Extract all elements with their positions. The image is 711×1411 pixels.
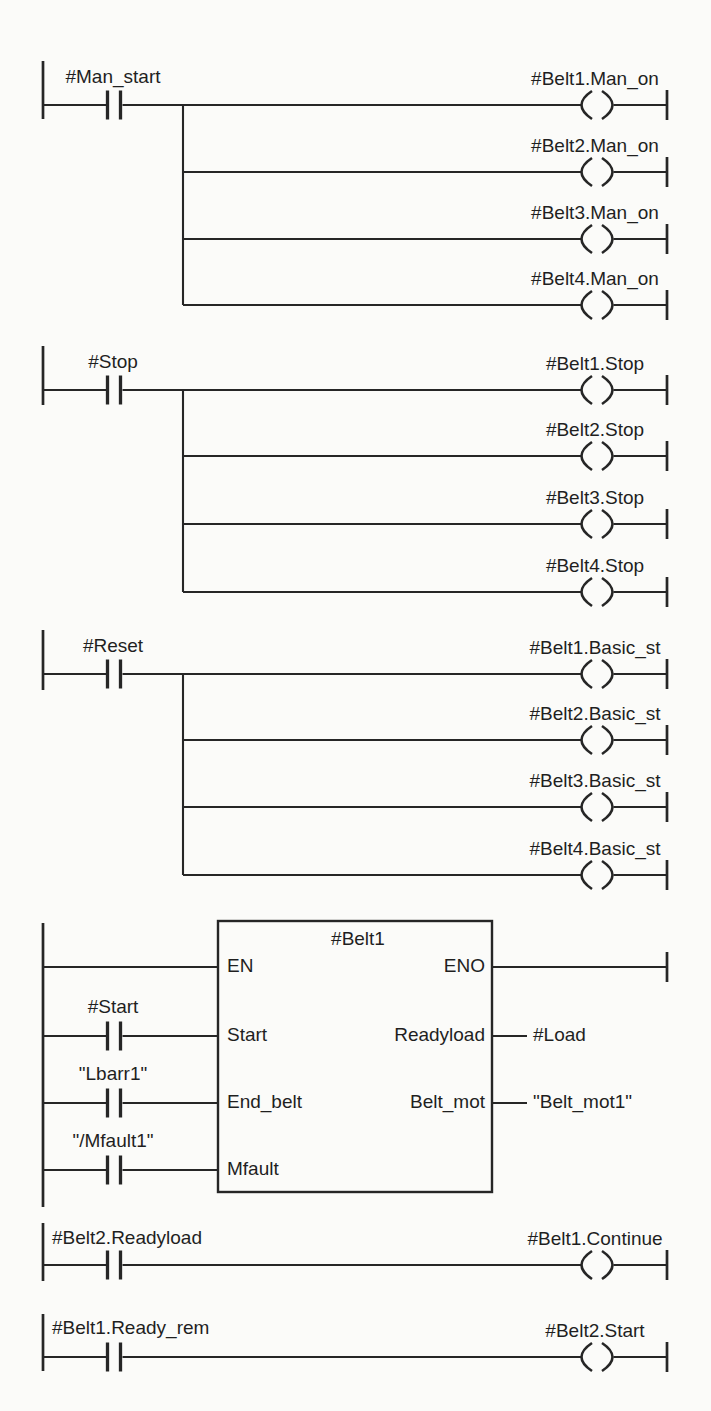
coil-right-paren [602,510,613,538]
pin-label-start: Start [227,1024,268,1045]
scanned-ladder-diagram-page: #Man_start #Belt1.Man_on #Belt2.Man_on #… [0,0,711,1411]
network-5: #Belt2.Readyload #Belt1.Continue [43,1223,667,1281]
coil-right-paren [602,225,613,253]
contact-operand-label: "Lbarr1" [79,1063,147,1084]
contact-operand-label: "/Mfault1" [72,1130,153,1151]
coil-operand-label: #Belt4.Man_on [531,268,659,290]
coil-operand-label: #Belt3.Basic_st [530,770,662,792]
coil-right-paren [602,793,613,821]
coil-left-paren [582,861,593,889]
coil-left-paren [582,793,593,821]
coil [582,726,613,754]
pin-label-readyload: Readyload [394,1024,485,1045]
coil-operand-label: #Belt3.Man_on [531,202,659,224]
contact-operand-label: #Man_start [65,66,161,88]
coil [582,1251,613,1279]
coil-left-paren [582,1343,593,1371]
coil-left-paren [582,91,593,119]
coil-operand-label: #Belt2.Start [545,1320,645,1341]
ladder-diagram: #Man_start #Belt1.Man_on #Belt2.Man_on #… [0,0,711,1411]
coil-left-paren [582,1251,593,1279]
network-2: #Stop #Belt1.Stop #Belt2.Stop #Belt3.Sto… [43,346,667,607]
coil-operand-label: #Belt4.Basic_st [530,838,662,860]
coil-left-paren [582,578,593,606]
pin-label-eno: ENO [444,955,485,976]
pin-label-en: EN [227,955,253,976]
contact-operand-label: #Belt2.Readyload [52,1227,202,1248]
coil-operand-label: #Belt2.Stop [546,419,644,440]
coil-left-paren [582,376,593,404]
network-1: #Man_start #Belt1.Man_on #Belt2.Man_on #… [43,61,667,320]
coil [582,291,613,319]
coil [582,660,613,688]
output-operand-label: #Load [533,1024,586,1045]
coil-right-paren [602,660,613,688]
coil [582,793,613,821]
coil-operand-label: #Belt4.Stop [546,555,644,576]
coil-right-paren [602,861,613,889]
coil [582,91,613,119]
coil-left-paren [582,660,593,688]
coil-left-paren [582,225,593,253]
coil-operand-label: #Belt1.Basic_st [530,637,662,659]
coil-right-paren [602,578,613,606]
coil-right-paren [602,158,613,186]
coil-left-paren [582,158,593,186]
coil-operand-label: #Belt1.Man_on [531,68,659,90]
coil-left-paren [582,726,593,754]
contact-operand-label: #Belt1.Ready_rem [52,1317,209,1339]
coil [582,1343,613,1371]
coil-operand-label: #Belt2.Man_on [531,135,659,157]
coil-right-paren [602,442,613,470]
coil [582,861,613,889]
network-6: #Belt1.Ready_rem #Belt2.Start [43,1314,667,1372]
coil-right-paren [602,91,613,119]
pin-label-mfault: Mfault [227,1158,279,1179]
contact-operand-label: #Stop [88,351,138,372]
output-operand-label: "Belt_mot1" [533,1091,632,1113]
coil-right-paren [602,376,613,404]
coil-operand-label: #Belt2.Basic_st [530,703,662,725]
coil-left-paren [582,510,593,538]
coil-right-paren [602,726,613,754]
coil-right-paren [602,291,613,319]
coil [582,578,613,606]
coil [582,225,613,253]
coil [582,442,613,470]
coil-left-paren [582,442,593,470]
network-4: #Belt1 EN ENO #Start Start Readyload #Lo… [43,921,667,1207]
coil-operand-label: #Belt1.Stop [546,353,644,374]
contact-operand-label: #Start [88,996,139,1017]
coil [582,158,613,186]
function-block-title: #Belt1 [331,928,385,949]
coil-right-paren [602,1251,613,1279]
coil-right-paren [602,1343,613,1371]
pin-label-end-belt: End_belt [227,1091,303,1113]
coil [582,376,613,404]
pin-label-belt-mot: Belt_mot [410,1091,486,1113]
coil-operand-label: #Belt3.Stop [546,487,644,508]
coil-operand-label: #Belt1.Continue [527,1228,662,1249]
contact-operand-label: #Reset [83,635,144,656]
coil-left-paren [582,291,593,319]
network-3: #Reset #Belt1.Basic_st #Belt2.Basic_st #… [43,630,667,890]
coil [582,510,613,538]
